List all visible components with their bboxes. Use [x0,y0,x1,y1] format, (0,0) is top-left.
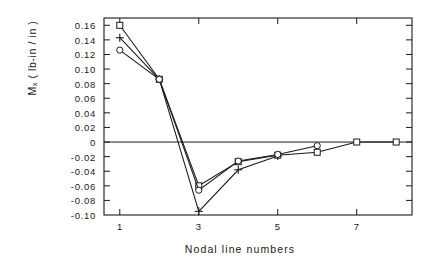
x-tick-marks [120,18,357,215]
x-tick-label: 5 [275,221,281,232]
data-series-circle [117,47,321,193]
data-series-square [117,22,399,189]
plot-canvas [0,0,433,271]
x-tick-label: 7 [354,221,360,232]
x-tick-label: 3 [196,221,202,232]
plot-frame [104,18,412,215]
x-tick-label: 1 [117,221,123,232]
chart-figure: Mₓ ( lb-in / in ) 0.160.140.120.100.080.… [0,0,433,271]
y-tick-marks [104,25,412,200]
